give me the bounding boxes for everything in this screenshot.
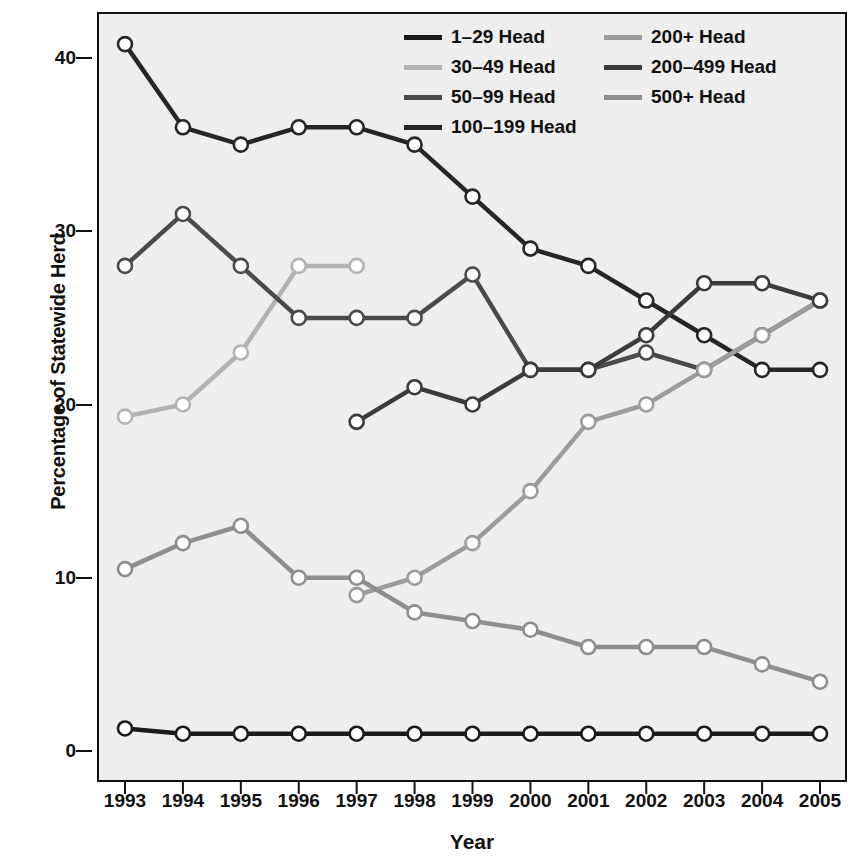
data-point (176, 536, 190, 550)
legend-swatch-icon (604, 65, 642, 70)
data-point (118, 259, 132, 273)
data-point (292, 571, 306, 585)
data-point (408, 571, 422, 585)
x-tick-label: 1997 (324, 790, 390, 812)
data-point (697, 276, 711, 290)
data-point (408, 380, 422, 394)
data-point (639, 346, 653, 360)
legend-item-500+-head[interactable]: 500+ Head (604, 82, 839, 112)
data-point (581, 259, 595, 273)
series-200-499-head (357, 283, 820, 422)
data-point (350, 588, 364, 602)
markers-1-29-head (118, 721, 827, 740)
data-point (813, 363, 827, 377)
legend-swatch-icon (604, 35, 642, 40)
legend-swatch-icon (404, 125, 442, 130)
data-point (813, 294, 827, 308)
legend-label: 200–499 Head (651, 56, 777, 78)
data-point (118, 37, 132, 51)
legend-label: 1–29 Head (451, 26, 545, 48)
chart-page: 010203040 Percentage of Statewide Herd 1… (0, 0, 862, 865)
data-point (408, 727, 422, 741)
data-point (176, 207, 190, 221)
data-point (466, 398, 480, 412)
data-point (581, 363, 595, 377)
legend-swatch-icon (404, 65, 442, 70)
legend-swatch-icon (404, 95, 442, 100)
data-point (234, 259, 248, 273)
legend-label: 500+ Head (651, 86, 746, 108)
markers-30-49-head (118, 259, 364, 424)
series-line (125, 214, 820, 370)
data-point (466, 190, 480, 204)
legend-label: 30–49 Head (451, 56, 556, 78)
legend-spacer (604, 112, 839, 142)
legend-item-30-49-head[interactable]: 30–49 Head (404, 52, 604, 82)
data-point (292, 311, 306, 325)
x-tick-label: 2005 (787, 790, 853, 812)
legend-swatch-icon (404, 35, 442, 40)
data-point (350, 727, 364, 741)
data-point (176, 120, 190, 134)
data-point (408, 605, 422, 619)
data-point (697, 328, 711, 342)
series-50-99-head (125, 214, 820, 370)
legend-item-1-29-head[interactable]: 1–29 Head (404, 22, 604, 52)
x-axis-ticks: 1993199419951996199719981999200020012002… (97, 790, 847, 820)
data-point (234, 727, 248, 741)
data-point (466, 268, 480, 282)
data-point (755, 328, 769, 342)
data-point (581, 640, 595, 654)
data-point (639, 727, 653, 741)
data-point (813, 675, 827, 689)
series-30-49-head (125, 266, 357, 417)
legend-item-100-199-head[interactable]: 100–199 Head (404, 112, 604, 142)
data-point (292, 259, 306, 273)
data-point (755, 363, 769, 377)
data-point (523, 484, 537, 498)
data-point (118, 562, 132, 576)
markers-50-99-head (118, 207, 827, 377)
series-line (357, 301, 820, 596)
data-point (292, 727, 306, 741)
data-point (697, 363, 711, 377)
data-point (350, 120, 364, 134)
x-tick-label: 1995 (208, 790, 274, 812)
legend-label: 100–199 Head (451, 116, 577, 138)
data-point (523, 242, 537, 256)
data-point (813, 727, 827, 741)
data-point (350, 259, 364, 273)
markers-200-499-head (350, 276, 827, 429)
series-line (357, 283, 820, 422)
data-point (755, 657, 769, 671)
series-line (125, 266, 357, 417)
data-point (466, 614, 480, 628)
markers-200+-head (350, 294, 827, 603)
data-point (118, 410, 132, 424)
data-point (466, 727, 480, 741)
data-point (639, 398, 653, 412)
data-point (581, 415, 595, 429)
data-point (350, 415, 364, 429)
legend-item-200+-head[interactable]: 200+ Head (604, 22, 839, 52)
x-tick-label: 1993 (92, 790, 158, 812)
legend-item-200-499-head[interactable]: 200–499 Head (604, 52, 839, 82)
data-point (755, 727, 769, 741)
data-point (523, 623, 537, 637)
data-point (176, 727, 190, 741)
legend-label: 200+ Head (651, 26, 746, 48)
data-point (581, 727, 595, 741)
data-point (639, 328, 653, 342)
x-tick-label: 2000 (497, 790, 563, 812)
legend-label: 50–99 Head (451, 86, 556, 108)
data-point (350, 571, 364, 585)
data-point (639, 640, 653, 654)
data-point (176, 398, 190, 412)
data-point (234, 346, 248, 360)
series-200+-head (357, 301, 820, 596)
legend-item-50-99-head[interactable]: 50–99 Head (404, 82, 604, 112)
data-point (234, 519, 248, 533)
x-axis-label: Year (97, 830, 847, 854)
data-point (755, 276, 769, 290)
data-point (234, 138, 248, 152)
